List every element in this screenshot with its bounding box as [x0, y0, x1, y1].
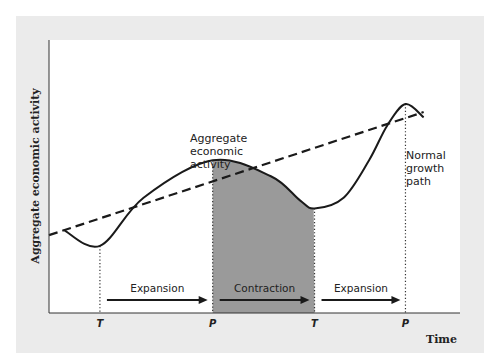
business-cycle-diagram: ExpansionContractionExpansion TPTP Aggre… [0, 0, 501, 364]
trough-tick-label: T [311, 318, 319, 329]
y-axis-label: Aggregate economic activity [29, 88, 42, 265]
contraction-label: Contraction [234, 282, 295, 294]
expansion-label: Expansion [334, 282, 388, 294]
expansion-label: Expansion [130, 282, 184, 294]
peak-tick-label: P [402, 318, 410, 329]
trough-tick-label: T [97, 318, 105, 329]
arrow-head-icon [199, 296, 208, 304]
x-axis-label: Time [426, 333, 457, 346]
peak-tick-label: P [209, 318, 217, 329]
arrow-head-icon [391, 296, 400, 304]
growth-path-annotation: Normal growth path [406, 149, 449, 188]
